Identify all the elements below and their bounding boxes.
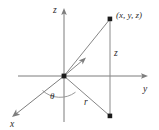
radial-line-r bbox=[64, 76, 110, 116]
origin-marker bbox=[62, 74, 67, 79]
z-axis-label: z bbox=[52, 5, 57, 15]
origin-to-point-line bbox=[64, 19, 110, 76]
point-xyz-marker bbox=[108, 17, 113, 22]
point-projection-marker bbox=[108, 114, 113, 119]
radial-segment-label: r bbox=[84, 97, 88, 107]
reference-ray-arrowhead-icon bbox=[79, 58, 86, 65]
coordinate-diagram-canvas: z y x (x, y, z) z r θ bbox=[0, 0, 159, 130]
x-axis-arrowhead-icon bbox=[12, 109, 20, 117]
x-axis-line bbox=[15, 76, 64, 115]
labels-group: z y x (x, y, z) z r θ bbox=[9, 5, 148, 129]
point-coordinates-label: (x, y, z) bbox=[116, 10, 142, 20]
x-axis-label: x bbox=[9, 119, 15, 129]
reference-ray-stub bbox=[64, 60, 83, 76]
y-axis-label: y bbox=[142, 84, 148, 94]
construction-lines-group bbox=[43, 19, 111, 116]
height-segment-label: z bbox=[113, 48, 118, 58]
angle-label-theta: θ bbox=[50, 91, 55, 101]
coordinate-diagram-figure: z y x (x, y, z) z r θ bbox=[0, 0, 159, 130]
angle-arc-theta bbox=[43, 91, 76, 98]
axes-group bbox=[12, 8, 148, 122]
